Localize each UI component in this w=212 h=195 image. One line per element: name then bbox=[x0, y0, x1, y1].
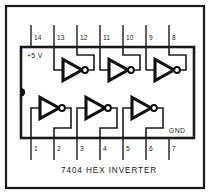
pin-label-1: 1 bbox=[34, 145, 38, 152]
pin-label-7: 7 bbox=[172, 145, 176, 152]
pin-label-14: 14 bbox=[34, 34, 42, 41]
ground-label: GND bbox=[169, 127, 185, 134]
gate-top-3-inversion-bubble-icon bbox=[174, 67, 180, 73]
pin-label-9: 9 bbox=[149, 34, 153, 41]
gate-top-1-inversion-bubble-icon bbox=[82, 67, 88, 73]
ic-pinout-figure: 14 13 12 11 10 9 8 1 2 3 4 5 6 7 +5 V GN… bbox=[0, 0, 212, 195]
supply-voltage-label: +5 V bbox=[27, 52, 43, 59]
gate-bottom-1-inversion-bubble-icon bbox=[59, 105, 65, 111]
pin-label-11: 11 bbox=[103, 34, 110, 41]
pin-label-5: 5 bbox=[126, 145, 130, 152]
pin-label-12: 12 bbox=[80, 34, 88, 41]
pin-label-6: 6 bbox=[149, 145, 153, 152]
gate-bottom-3-inversion-bubble-icon bbox=[151, 105, 157, 111]
gate-top-2-inversion-bubble-icon bbox=[128, 67, 134, 73]
pin-label-8: 8 bbox=[172, 34, 176, 41]
pin-label-2: 2 bbox=[57, 145, 61, 152]
figure-caption: 7404 HEX INVERTER bbox=[61, 166, 157, 175]
gate-bottom-2-inversion-bubble-icon bbox=[105, 105, 111, 111]
pin-label-4: 4 bbox=[103, 145, 107, 152]
pin-label-10: 10 bbox=[126, 34, 134, 41]
pin-label-3: 3 bbox=[80, 145, 84, 152]
pin-label-13: 13 bbox=[57, 34, 65, 41]
